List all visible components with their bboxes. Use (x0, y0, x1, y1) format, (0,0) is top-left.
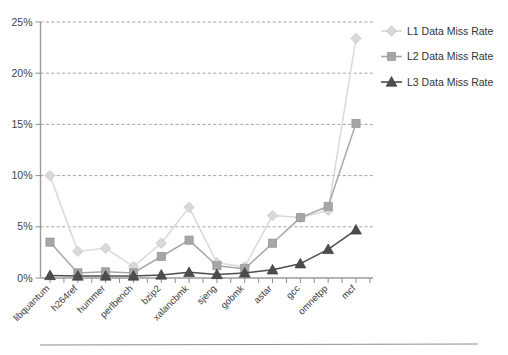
x-axis-tick-labels: libquantumh264refhummerperlbenchbzip2xal… (11, 282, 358, 323)
series-line (50, 123, 356, 273)
data-point-marker (351, 224, 362, 234)
data-point-marker (351, 33, 361, 43)
x-tick-label: sjeng (194, 283, 218, 307)
chart-container: 0%5%10%15%20%25% libquantumh264refhummer… (0, 0, 508, 355)
series-line (50, 38, 356, 266)
y-tick-label: 20% (11, 67, 32, 79)
data-point-marker (268, 239, 276, 247)
y-tick-label: 25% (11, 16, 32, 28)
data-point-marker (73, 246, 83, 256)
footer-divider (40, 344, 478, 345)
x-tick-label: mcf (339, 282, 358, 301)
footer-rule (40, 344, 478, 345)
y-tick-label: 15% (11, 118, 32, 130)
data-point-marker (185, 236, 193, 244)
data-point-marker (295, 258, 306, 268)
y-tick-label: 10% (11, 169, 32, 181)
data-point-marker (100, 243, 110, 253)
y-axis-tick-labels: 0%5%10%15%20%25% (11, 16, 32, 284)
legend-item[interactable]: L1 Data Miss Rate (381, 25, 494, 37)
y-tick-label: 0% (17, 272, 32, 284)
x-tick-label: gobmk (218, 282, 246, 310)
y-tick-label: 5% (17, 220, 32, 232)
data-point-marker (184, 267, 195, 277)
legend-marker (386, 26, 396, 36)
chart-legend: L1 Data Miss RateL2 Data Miss RateL3 Dat… (381, 25, 494, 88)
data-point-marker (323, 244, 334, 254)
legend-item[interactable]: L3 Data Miss Rate (381, 76, 494, 88)
data-point-marker (46, 238, 54, 246)
series-1 (45, 33, 361, 272)
data-point-marker (296, 213, 304, 221)
series-2 (46, 119, 360, 277)
data-point-marker (352, 119, 360, 127)
line-chart: 0%5%10%15%20%25% libquantumh264refhummer… (0, 0, 508, 355)
legend-label: L2 Data Miss Rate (407, 50, 494, 62)
x-axis (41, 278, 374, 283)
x-tick-label: omnetpp (296, 283, 330, 317)
legend-label: L1 Data Miss Rate (407, 25, 494, 37)
x-tick-label: astar (251, 283, 274, 306)
data-point-marker (267, 210, 277, 220)
legend-marker (387, 52, 395, 60)
gridlines (41, 22, 374, 227)
legend-label: L3 Data Miss Rate (407, 76, 494, 88)
x-tick-label: bzip2 (139, 283, 163, 307)
x-tick-label: libquantum (11, 283, 52, 324)
data-series (45, 33, 362, 280)
data-point-marker (157, 252, 165, 260)
y-axis (36, 22, 41, 278)
data-point-marker (45, 170, 55, 180)
x-tick-label: gcc (284, 282, 302, 300)
legend-item[interactable]: L2 Data Miss Rate (381, 50, 494, 62)
data-point-marker (324, 202, 332, 210)
